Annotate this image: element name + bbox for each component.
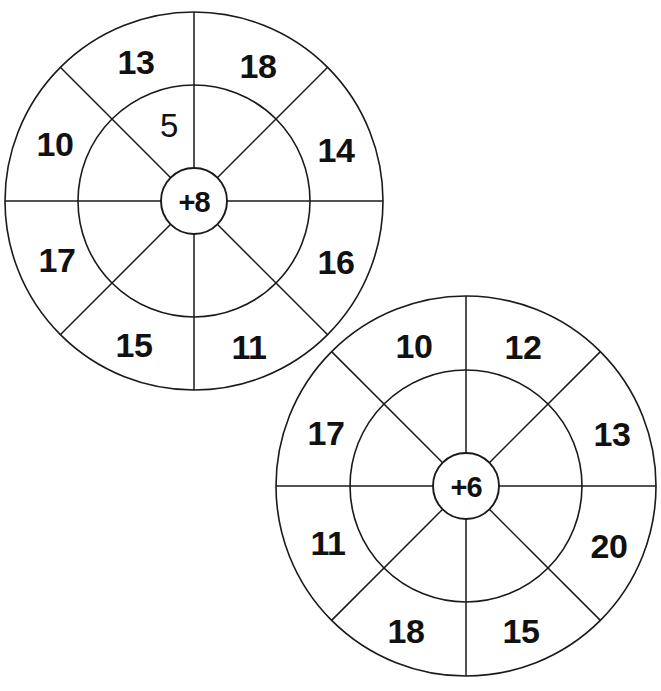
wheel-1-outer-right-upper[interactable]: 14	[318, 131, 355, 169]
wheel-2-hub-label: +6	[450, 471, 482, 503]
wheel-2-outer-bottom-right[interactable]: 15	[503, 612, 540, 650]
wheel-1-inner-top-left[interactable]: 5	[160, 107, 178, 144]
wheel-1-outer-left-upper[interactable]: 10	[37, 125, 74, 163]
wheel-1-outer-top-right[interactable]: 18	[240, 47, 277, 85]
addition-wheels-diagram: +8 13 18 14 16 11 15 17 10 5	[0, 0, 661, 691]
wheel-1-outer-top-left[interactable]: 13	[118, 43, 155, 81]
wheel-2-outer-bottom-left[interactable]: 18	[388, 612, 425, 650]
wheel-2-outer-right-upper[interactable]: 13	[594, 415, 631, 453]
wheel-1-outer-bottom-left[interactable]: 15	[116, 326, 153, 364]
wheel-2[interactable]: +6 10 12 13 20 15 18 11 17	[276, 296, 656, 676]
wheel-1-hub-label: +8	[178, 186, 210, 218]
wheel-1-outer-left-lower[interactable]: 17	[39, 241, 76, 279]
wheel-2-outer-top-right[interactable]: 12	[505, 328, 542, 366]
wheel-1-outer-bottom-right[interactable]: 11	[232, 328, 267, 366]
wheel-1-outer-right-lower[interactable]: 16	[318, 243, 355, 281]
wheel-2-outer-right-lower[interactable]: 20	[591, 527, 628, 565]
wheel-2-outer-left-upper[interactable]: 17	[308, 414, 345, 452]
wheel-1[interactable]: +8 13 18 14 16 11 15 17 10 5	[5, 12, 383, 390]
wheel-2-outer-top-left[interactable]: 10	[396, 327, 433, 365]
worksheet-canvas: +8 13 18 14 16 11 15 17 10 5	[0, 0, 661, 691]
wheel-2-outer-left-lower[interactable]: 11	[311, 524, 346, 562]
